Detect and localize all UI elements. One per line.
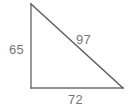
horizontal-leg-label: 72 (68, 93, 83, 106)
vertical-leg-label: 65 (9, 43, 24, 56)
hypotenuse-label: 97 (76, 33, 91, 46)
triangle-figure: 65 97 72 (0, 0, 130, 111)
